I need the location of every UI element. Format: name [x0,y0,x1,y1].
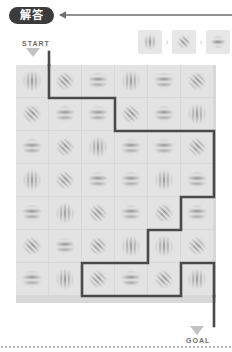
vertical-grating-icon [16,164,48,196]
legend-diagonal-grating-icon [172,30,196,54]
maze-tile-horizontal [49,98,81,130]
horizontal-grating-icon [49,230,81,262]
maze-tile-diagonal [82,230,114,262]
maze-tile-diagonal [148,263,180,295]
orientation-legend: › › [138,28,232,56]
vertical-grating-icon [82,131,114,163]
diagonal-grating-icon [181,65,213,97]
diagonal-grating-icon [181,131,213,163]
maze-tile-horizontal [82,65,114,97]
maze-tile-horizontal [49,230,81,262]
diagonal-grating-icon [49,164,81,196]
maze-tile-vertical [148,230,180,262]
horizontal-grating-icon [148,98,180,130]
legend-separator-1-icon: › [164,37,170,47]
maze-tile-horizontal [148,131,180,163]
horizontal-grating-icon [115,131,147,163]
horizontal-grating-icon [82,65,114,97]
vertical-grating-icon [115,65,147,97]
diagonal-grating-icon [115,98,147,130]
maze-tile-horizontal [115,164,147,196]
diagonal-grating-icon [148,263,180,295]
maze-tile-horizontal [16,263,48,295]
vertical-grating-icon [148,230,180,262]
maze-tile-diagonal [16,98,48,130]
maze-tile-horizontal [16,131,48,163]
maze-tile-horizontal [16,197,48,229]
goal-down-arrow-icon [190,326,204,335]
diagonal-grating-icon [82,263,114,295]
diagonal-grating-icon [16,230,48,262]
diagonal-grating-icon [16,98,48,130]
maze-tile-vertical [82,131,114,163]
vertical-grating-icon [115,230,147,262]
maze-tile-vertical [115,65,147,97]
diagonal-grating-icon [82,197,114,229]
page-header: 解答 [0,0,232,28]
maze-tile-horizontal [181,164,213,196]
diagonal-grating-icon [181,230,213,262]
horizontal-grating-icon [148,131,180,163]
maze-tile-horizontal [115,197,147,229]
maze-tile-horizontal [148,98,180,130]
maze-tile-diagonal [115,98,147,130]
footer-dotted-divider [0,346,232,348]
maze-tile-diagonal [181,230,213,262]
diagonal-grating-icon [82,230,114,262]
maze-tile-vertical [181,98,213,130]
start-label: START [22,40,50,47]
answer-page: 解答 › › START GOAL [0,0,232,352]
horizontal-grating-icon [82,164,114,196]
maze-tile-diagonal [49,164,81,196]
maze-tile-horizontal [148,65,180,97]
maze-tile-horizontal [181,197,213,229]
diagonal-grating-icon [49,131,81,163]
horizontal-grating-icon [49,98,81,130]
vertical-grating-icon [16,65,48,97]
maze-tile-horizontal [115,131,147,163]
vertical-grating-icon [49,197,81,229]
maze-tile-diagonal [82,197,114,229]
maze-tile-diagonal [49,131,81,163]
horizontal-grating-icon [115,164,147,196]
long-left-arrow-icon [57,8,232,22]
horizontal-grating-icon [181,164,213,196]
horizontal-grating-icon [16,263,48,295]
horizontal-grating-icon [16,131,48,163]
maze-tile-vertical [16,164,48,196]
maze-tile-vertical [115,230,147,262]
vertical-grating-icon [181,98,213,130]
maze-tile-diagonal [16,230,48,262]
vertical-grating-icon [181,263,213,295]
maze-tile-diagonal [181,65,213,97]
vertical-grating-icon [148,164,180,196]
answer-badge: 解答 [9,7,54,24]
start-down-arrow-icon [26,48,40,57]
maze-tile-horizontal [82,164,114,196]
horizontal-grating-icon [148,65,180,97]
maze-tile-diagonal [181,131,213,163]
maze-grid [16,65,216,303]
horizontal-grating-icon [82,98,114,130]
maze-tile-diagonal [148,197,180,229]
maze-tile-vertical [16,65,48,97]
vertical-grating-icon [49,263,81,295]
horizontal-grating-icon [16,197,48,229]
legend-vertical-grating-icon [138,30,162,54]
maze-tile-vertical [181,263,213,295]
maze-tile-horizontal [115,263,147,295]
horizontal-grating-icon [115,197,147,229]
legend-separator-2-icon: › [198,37,204,47]
diagonal-grating-icon [148,197,180,229]
horizontal-grating-icon [181,197,213,229]
legend-horizontal-grating-icon [206,30,230,54]
maze-tile-diagonal [82,263,114,295]
maze-tile-vertical [148,164,180,196]
maze-tile-vertical [49,197,81,229]
horizontal-grating-icon [115,263,147,295]
goal-label: GOAL [186,337,210,344]
diagonal-grating-icon [49,65,81,97]
maze-tile-horizontal [82,98,114,130]
maze-tile-vertical [49,263,81,295]
maze-tile-diagonal [49,65,81,97]
